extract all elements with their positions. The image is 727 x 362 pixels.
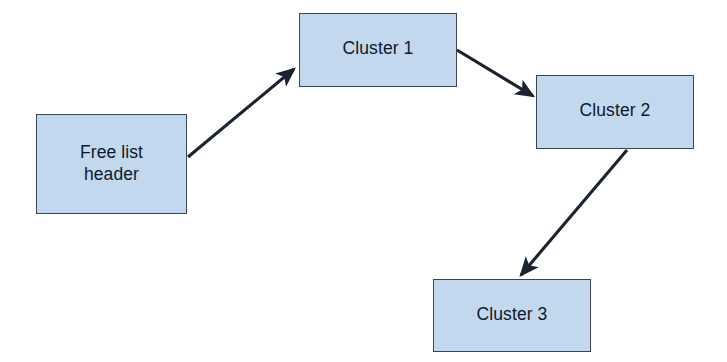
node-cluster-2[interactable]: Cluster 2 <box>536 75 694 149</box>
node-cluster-1-label: Cluster 1 <box>343 38 414 59</box>
node-free-list-header-label: Free list header <box>80 142 143 185</box>
node-free-list-header[interactable]: Free list header <box>36 114 187 214</box>
edge-header-to-cluster1 <box>188 69 294 157</box>
node-cluster-1[interactable]: Cluster 1 <box>299 13 457 87</box>
diagram-canvas: Free list header Cluster 1 Cluster 2 Clu… <box>0 0 727 362</box>
node-cluster-2-label: Cluster 2 <box>580 100 651 121</box>
node-cluster-3[interactable]: Cluster 3 <box>433 279 591 352</box>
edge-cluster1-to-cluster2 <box>457 50 533 96</box>
edge-cluster2-to-cluster3 <box>521 150 627 275</box>
node-cluster-3-label: Cluster 3 <box>477 304 548 325</box>
